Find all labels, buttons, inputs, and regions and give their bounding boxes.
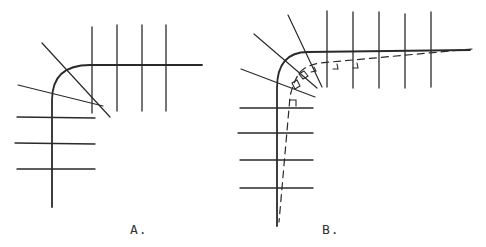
panel-b-radial-lines	[241, 15, 322, 97]
panel-b	[238, 11, 472, 226]
panel-b-label: B.	[322, 222, 340, 237]
panel-a-diagonal-lines	[18, 43, 110, 117]
diagram-canvas	[0, 0, 486, 247]
panel-a	[15, 25, 202, 207]
panel-b-dashed-offset-line	[279, 49, 472, 222]
panel-a-vertical-ticks	[92, 25, 166, 113]
panel-a-label: A.	[130, 222, 148, 237]
panel-b-horizontal-ticks	[238, 108, 313, 188]
panel-a-horizontal-ticks	[15, 117, 95, 169]
panel-a-corner-line	[52, 65, 202, 207]
panel-b-right-angle-markers	[290, 63, 358, 106]
panel-b-vertical-ticks	[327, 11, 431, 88]
panel-b-corner-line	[277, 50, 470, 226]
